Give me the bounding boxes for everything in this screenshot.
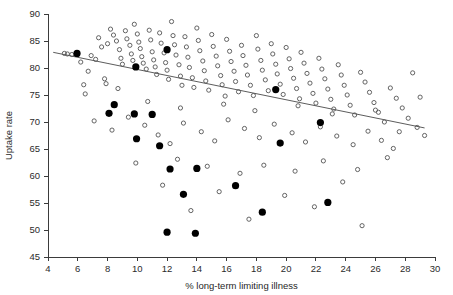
data-point-open bbox=[312, 205, 316, 209]
data-point-solid bbox=[166, 165, 173, 172]
data-point-open bbox=[181, 121, 185, 125]
data-point-open bbox=[177, 63, 181, 67]
plot-canvas: 4681012141618202224262830455055606570758… bbox=[0, 0, 453, 295]
data-point-open bbox=[260, 68, 264, 72]
data-point-open bbox=[152, 58, 156, 62]
data-point-open bbox=[358, 70, 362, 74]
data-point-open bbox=[278, 82, 282, 86]
data-point-open bbox=[116, 86, 120, 90]
data-point-open bbox=[271, 52, 275, 56]
y-tick-label: 90 bbox=[29, 8, 40, 19]
data-point-open bbox=[367, 90, 371, 94]
data-point-open bbox=[397, 130, 401, 134]
data-point-solid bbox=[317, 119, 324, 126]
data-point-open bbox=[388, 86, 392, 90]
data-point-open bbox=[171, 34, 175, 38]
data-point-solid bbox=[149, 111, 156, 118]
data-point-open bbox=[226, 118, 230, 122]
data-point-open bbox=[262, 163, 266, 167]
data-point-open bbox=[275, 72, 279, 76]
data-point-solid bbox=[105, 110, 112, 117]
data-point-open bbox=[114, 39, 118, 43]
data-point-open bbox=[196, 38, 200, 42]
data-point-open bbox=[123, 29, 127, 33]
data-point-open bbox=[254, 34, 258, 38]
data-point-open bbox=[217, 190, 221, 194]
data-point-open bbox=[311, 91, 315, 95]
data-point-open bbox=[289, 66, 293, 70]
data-point-open bbox=[251, 93, 255, 97]
data-point-open bbox=[138, 46, 142, 50]
data-point-open bbox=[128, 43, 132, 47]
data-point-open bbox=[394, 96, 398, 100]
axis-labels-group: 4681012141618202224262830455055606570758… bbox=[3, 8, 440, 291]
data-point-open bbox=[256, 47, 260, 51]
data-point-open bbox=[126, 115, 130, 119]
data-point-open bbox=[131, 58, 135, 62]
data-point-open bbox=[161, 183, 165, 187]
data-point-open bbox=[205, 164, 209, 168]
data-point-open bbox=[225, 37, 229, 41]
data-point-open bbox=[302, 61, 306, 65]
y-tick-label: 60 bbox=[29, 170, 40, 181]
data-point-open bbox=[223, 94, 227, 98]
x-tick-label: 22 bbox=[311, 263, 322, 274]
data-point-open bbox=[189, 208, 193, 212]
data-point-open bbox=[180, 83, 184, 87]
data-point-open bbox=[232, 69, 236, 73]
data-point-open bbox=[92, 119, 96, 123]
data-point-open bbox=[199, 130, 203, 134]
data-point-open bbox=[105, 42, 109, 46]
data-point-solid bbox=[132, 63, 139, 70]
data-point-open bbox=[172, 43, 176, 47]
data-point-open bbox=[214, 54, 218, 58]
data-point-open bbox=[97, 36, 101, 40]
data-point-open bbox=[137, 40, 141, 44]
x-tick-label: 26 bbox=[370, 263, 381, 274]
data-point-open bbox=[83, 92, 87, 96]
data-point-open bbox=[156, 133, 160, 137]
data-point-open bbox=[158, 31, 162, 35]
data-point-open bbox=[422, 133, 426, 137]
y-tick-label: 55 bbox=[29, 197, 40, 208]
data-point-open bbox=[222, 102, 226, 106]
y-tick-label: 65 bbox=[29, 143, 40, 154]
data-point-open bbox=[245, 73, 249, 77]
data-point-open bbox=[143, 123, 147, 127]
data-point-open bbox=[220, 83, 224, 87]
data-point-open bbox=[153, 65, 157, 69]
x-tick-label: 30 bbox=[430, 263, 441, 274]
data-point-solid bbox=[133, 135, 140, 142]
data-point-open bbox=[259, 58, 263, 62]
data-point-open bbox=[415, 125, 419, 129]
data-point-open bbox=[321, 159, 325, 163]
data-point-open bbox=[391, 146, 395, 150]
x-tick-label: 16 bbox=[221, 263, 232, 274]
data-point-open bbox=[418, 95, 422, 99]
data-point-open bbox=[317, 56, 321, 60]
y-tick-label: 50 bbox=[29, 224, 40, 235]
data-point-open bbox=[329, 97, 333, 101]
data-point-solid bbox=[73, 50, 80, 57]
data-point-open bbox=[211, 44, 215, 48]
data-point-open bbox=[174, 53, 178, 57]
data-point-open bbox=[356, 167, 360, 171]
data-point-open bbox=[284, 45, 288, 49]
data-point-open bbox=[292, 76, 296, 80]
x-tick-label: 12 bbox=[162, 263, 173, 274]
x-tick-label: 18 bbox=[251, 263, 262, 274]
data-point-open bbox=[86, 69, 90, 73]
data-point-open bbox=[120, 62, 124, 66]
data-point-open bbox=[290, 131, 294, 135]
data-point-open bbox=[342, 83, 346, 87]
data-point-open bbox=[339, 73, 343, 77]
data-point-open bbox=[216, 64, 220, 68]
x-tick-label: 4 bbox=[45, 263, 50, 274]
data-point-open bbox=[263, 78, 267, 82]
data-point-open bbox=[314, 101, 318, 105]
data-point-open bbox=[190, 76, 194, 80]
data-point-solid bbox=[163, 46, 170, 53]
data-point-open bbox=[192, 85, 196, 89]
open-circle-series bbox=[62, 19, 426, 227]
data-point-open bbox=[336, 63, 340, 67]
